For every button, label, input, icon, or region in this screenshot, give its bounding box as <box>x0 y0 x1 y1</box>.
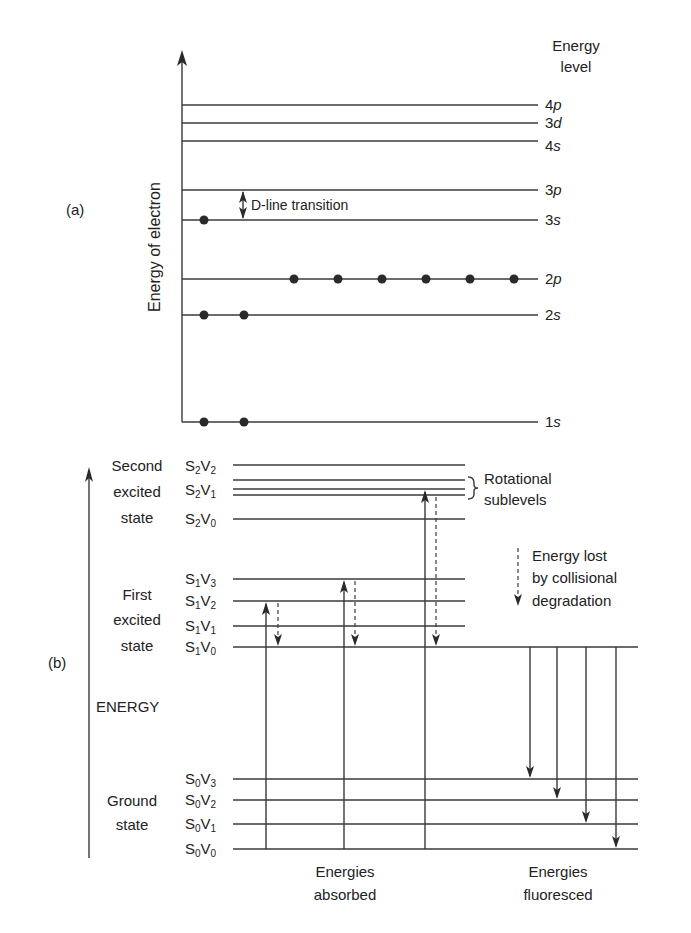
electron-dot <box>290 275 299 284</box>
collisional-legend-arrow-icon <box>514 548 522 606</box>
svg-text:Second: Second <box>112 457 163 474</box>
electron-dot <box>240 311 249 320</box>
d-line-transition-label: D-line transition <box>251 197 348 213</box>
svg-text:3p: 3p <box>545 181 562 198</box>
y-axis-label: Energy of electron <box>146 182 163 312</box>
svg-text:S0V3: S0V3 <box>185 770 217 789</box>
energy-axis-label: ENERGY <box>96 698 159 715</box>
svg-text:3d: 3d <box>545 114 562 131</box>
svg-text:S1V0: S1V0 <box>185 638 217 657</box>
rotational-brace-icon <box>468 477 478 499</box>
energy-level-header-2: level <box>561 58 592 75</box>
svg-text:S0V0: S0V0 <box>185 840 217 859</box>
level-2s: 2s <box>182 306 561 323</box>
svg-text:state: state <box>121 509 154 526</box>
legend-line-2: by collisional <box>532 569 617 586</box>
energy-level-diagram: (a) Energy of electron Energy level 4p 3… <box>0 0 691 933</box>
electron-dot <box>466 275 475 284</box>
level-4p: 4p <box>182 96 562 113</box>
absorbed-label-1: Energies <box>315 863 374 880</box>
panel-a-label: (a) <box>66 201 84 218</box>
level-3d: 3d <box>182 114 562 131</box>
svg-text:4s: 4s <box>545 137 561 154</box>
svg-text:2p: 2p <box>545 270 562 287</box>
absorption-arrows <box>262 490 440 849</box>
d-line-transition-arrow-icon <box>239 191 247 219</box>
svg-text:S1V3: S1V3 <box>185 570 217 589</box>
level-2p: 2p <box>182 270 562 287</box>
level-1s: 1s <box>182 413 561 430</box>
svg-text:1s: 1s <box>545 413 561 430</box>
panel-b-label: (b) <box>48 654 66 671</box>
panel-b: (b) ENERGY Second excited state First ex… <box>48 457 638 903</box>
state-second-excited: Second excited state <box>112 457 163 526</box>
svg-text:state: state <box>121 637 154 654</box>
svg-text:state: state <box>116 816 149 833</box>
electron-dot <box>200 418 209 427</box>
svg-text:S1V1: S1V1 <box>185 617 217 636</box>
legend-line-1: Energy lost <box>532 547 608 564</box>
electron-dot <box>200 311 209 320</box>
electron-dot <box>240 418 249 427</box>
svg-text:S0V2: S0V2 <box>185 791 217 810</box>
electron-dot <box>334 275 343 284</box>
energy-level-header-1: Energy <box>552 37 600 54</box>
svg-text:S2V0: S2V0 <box>185 510 217 529</box>
svg-text:4p: 4p <box>545 96 562 113</box>
electron-dot <box>422 275 431 284</box>
svg-text:2s: 2s <box>545 306 561 323</box>
svg-text:excited: excited <box>113 483 161 500</box>
level-lines <box>233 465 638 849</box>
svg-text:excited: excited <box>113 611 161 628</box>
fluorescence-arrows <box>526 647 620 848</box>
electron-dot <box>510 275 519 284</box>
level-3s: 3s <box>182 211 561 228</box>
electron-dot <box>378 275 387 284</box>
legend-line-3: degradation <box>532 592 611 609</box>
electron-dot <box>200 216 209 225</box>
state-ground: Ground state <box>107 792 157 833</box>
fluoresced-label-1: Energies <box>528 863 587 880</box>
svg-text:S1V2: S1V2 <box>185 592 217 611</box>
rotational-label-1: Rotational <box>484 470 552 487</box>
svg-text:S0V1: S0V1 <box>185 815 217 834</box>
level-3p: 3p <box>182 181 562 198</box>
svg-text:First: First <box>122 586 152 603</box>
svg-text:Ground: Ground <box>107 792 157 809</box>
fluoresced-label-2: fluoresced <box>523 886 592 903</box>
svg-text:3s: 3s <box>545 211 561 228</box>
svg-text:S2V1: S2V1 <box>185 481 217 500</box>
level-4s: 4s <box>182 137 561 154</box>
svg-text:S2V2: S2V2 <box>185 457 217 476</box>
rotational-label-2: sublevels <box>484 491 547 508</box>
panel-a: (a) Energy of electron Energy level 4p 3… <box>66 37 600 430</box>
state-first-excited: First excited state <box>113 586 161 654</box>
vibrational-level-labels: S2V2 S2V1 S2V0 S1V3 S1V2 S1V1 S1V0 S0V3 … <box>185 457 217 859</box>
absorbed-label-2: absorbed <box>314 886 377 903</box>
